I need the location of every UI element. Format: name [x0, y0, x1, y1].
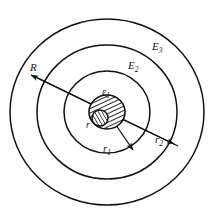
label-region-outer-subscript: 3 — [158, 46, 163, 55]
label-region-middle: E2 — [127, 59, 139, 74]
figure-container: E3 E2 ε1 R r r1 r2 — [0, 0, 216, 218]
label-radius-r: r — [86, 120, 90, 130]
dielectric-shell-diagram: E3 E2 ε1 R r r1 r2 — [0, 0, 216, 218]
label-radius-r1-subscript: 1 — [107, 148, 111, 157]
label-radius-r2: r2 — [155, 133, 163, 148]
label-radius-r2-subscript: 2 — [159, 139, 163, 148]
hatched-inner-core-circle — [92, 110, 108, 126]
label-region-middle-subscript: 2 — [135, 65, 139, 74]
label-region-core-subscript: 1 — [106, 91, 110, 100]
label-radius-R: R — [29, 61, 37, 73]
label-region-outer: E3 — [151, 40, 163, 55]
label-radius-r1: r1 — [103, 142, 111, 157]
